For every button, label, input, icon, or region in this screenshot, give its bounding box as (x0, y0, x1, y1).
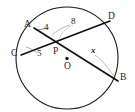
point-label-C: C (11, 49, 17, 58)
segment-label-pd-8: 8 (71, 17, 76, 26)
point-label-P: P (53, 47, 58, 56)
center-point-dot (65, 57, 68, 60)
chord-CD (21, 21, 110, 55)
segment-label-ap-4: 4 (44, 23, 49, 32)
point-label-O: O (64, 62, 71, 71)
segment-label-cp-5: 5 (37, 49, 42, 58)
geometry-figure: A D C B P O 4 8 5 x (0, 0, 135, 112)
point-label-B: B (120, 73, 126, 82)
point-label-D: D (108, 12, 115, 21)
point-label-A: A (24, 20, 31, 29)
segment-label-pb-x: x (91, 46, 96, 55)
chord-AB (34, 28, 118, 81)
leader-line-8 (52, 25, 70, 35)
